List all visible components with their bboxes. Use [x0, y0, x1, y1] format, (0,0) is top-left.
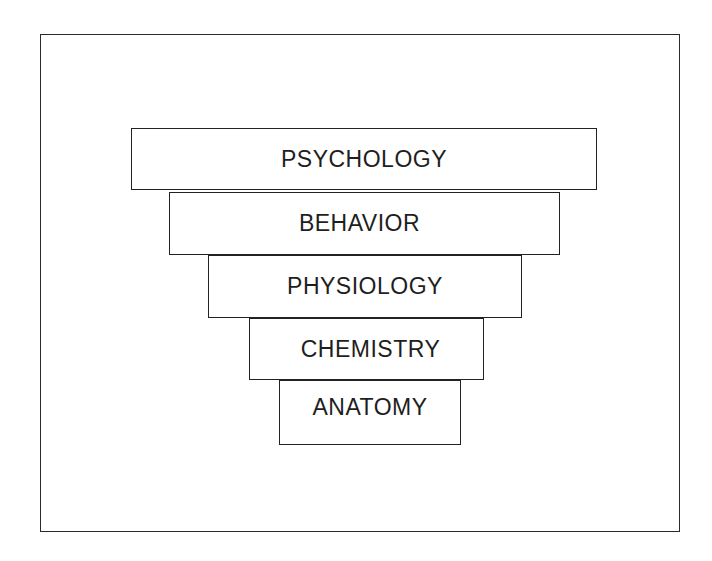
layer-label: PHYSIOLOGY — [287, 273, 443, 300]
layer-physiology: PHYSIOLOGY — [208, 255, 522, 318]
layer-anatomy: ANATOMY — [279, 380, 461, 445]
layer-label: ANATOMY — [312, 394, 427, 421]
layer-psychology: PSYCHOLOGY — [131, 128, 597, 190]
layer-label: PSYCHOLOGY — [281, 146, 447, 173]
layer-label: CHEMISTRY — [301, 336, 441, 363]
layer-behavior: BEHAVIOR — [169, 192, 560, 255]
layer-label: BEHAVIOR — [299, 210, 420, 237]
layer-chemistry: CHEMISTRY — [249, 318, 484, 380]
